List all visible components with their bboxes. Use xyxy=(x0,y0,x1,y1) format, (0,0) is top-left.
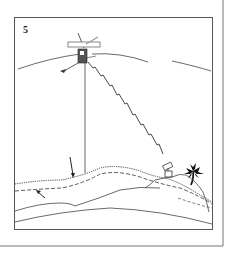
panel-number: 5 xyxy=(23,24,28,35)
diagram-canvas xyxy=(0,0,228,254)
orbit-arc-mid xyxy=(92,54,148,62)
figure-frame xyxy=(0,0,228,254)
contour-2 xyxy=(15,208,212,224)
signal-link xyxy=(88,62,163,154)
orbit-arc-right xyxy=(172,61,211,71)
ground-station-icon xyxy=(163,162,173,177)
palm-tree-icon xyxy=(184,163,204,185)
arrow-down-icon xyxy=(70,157,75,178)
island-shore xyxy=(145,180,155,188)
sea-surface xyxy=(15,167,212,202)
arrow-up-left-icon xyxy=(36,190,45,198)
geoid-line xyxy=(15,173,212,204)
island-outline xyxy=(155,174,209,212)
